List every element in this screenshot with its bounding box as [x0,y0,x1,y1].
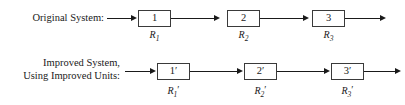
connector-original-2-to-3 [260,18,304,19]
unit-box-improved-3-label: 3′ [344,66,352,77]
connector-original-1-to-2 [171,18,215,19]
reliability-label-R1: R1 [138,29,171,44]
connector-original-entry [107,18,132,19]
unit-box-original-1[interactable]: 1 [138,10,171,27]
row-label-improved-system: Improved System, Using Improved Units: [0,57,120,82]
reliability-label-R3: R3 [312,29,345,44]
arrowhead-improved-1-to-2-icon [237,68,243,74]
reliability-label-R3-index: 3 [330,34,334,43]
unit-box-improved-2-label: 2′ [257,66,265,77]
connector-improved-2-to-3 [277,71,325,72]
connector-improved-exit [364,71,396,72]
arrowhead-improved-2-to-3-icon [324,68,330,74]
reliability-label-R2-index: 2 [245,34,249,43]
unit-box-original-2[interactable]: 2 [227,10,260,27]
unit-box-improved-3[interactable]: 3′ [331,63,364,80]
unit-box-improved-1-label: 1′ [170,66,178,77]
unit-box-improved-3-prime: ′ [349,65,351,76]
connector-original-exit [345,18,381,19]
connector-improved-entry [125,71,151,72]
unit-box-improved-2-prime: ′ [262,65,264,76]
reliability-label-R3-prime: R3′ [329,84,366,100]
reliability-label-R1-prime-mark: ′ [177,84,179,95]
unit-box-original-3[interactable]: 3 [312,10,345,27]
unit-box-original-3-label: 3 [326,13,331,24]
arrowhead-improved-exit-icon [395,68,401,74]
row-label-original-system: Original System: [0,12,104,25]
unit-box-original-2-label: 2 [241,13,246,24]
reliability-label-R2-prime-mark: ′ [264,84,266,95]
arrowhead-original-entry-icon [131,15,137,21]
arrowhead-original-1-to-2-icon [214,15,220,21]
unit-box-improved-1-prime: ′ [175,65,177,76]
unit-box-improved-2[interactable]: 2′ [244,63,277,80]
connector-improved-1-to-2 [190,71,238,72]
reliability-label-R2: R2 [227,29,260,44]
arrowhead-improved-entry-icon [150,68,156,74]
row-label-improved-system-line-1: Improved System, [0,57,120,70]
row-label-improved-system-line-2: Using Improved Units: [0,70,120,83]
reliability-block-diagram: Original System: 1 R1 2 R2 3 R3 Improved… [0,0,405,105]
unit-box-original-1-label: 1 [152,13,157,24]
arrowhead-original-2-to-3-icon [303,15,309,21]
unit-box-improved-1[interactable]: 1′ [157,63,190,80]
reliability-label-R2-prime: R2′ [242,84,279,100]
reliability-label-R1-index: 1 [156,34,160,43]
arrowhead-original-exit-icon [380,15,386,21]
row-label-original-system-line-1: Original System: [0,12,104,25]
reliability-label-R3-prime-mark: ′ [351,84,353,95]
reliability-label-R1-prime: R1′ [155,84,192,100]
